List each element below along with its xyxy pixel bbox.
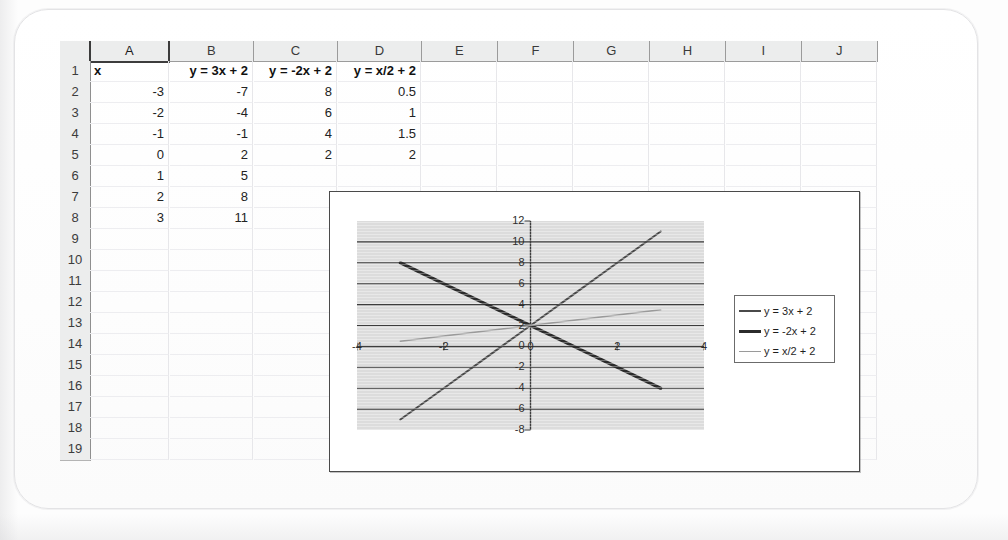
column-header-g[interactable]: G	[574, 41, 650, 62]
row-header-16[interactable]: 16	[60, 376, 91, 398]
row-header-9[interactable]: 9	[60, 229, 91, 251]
cell-C8[interactable]	[254, 208, 337, 229]
cell-A10[interactable]	[90, 250, 169, 271]
select-all-corner[interactable]	[60, 41, 91, 62]
cell-F6[interactable]	[498, 166, 573, 187]
cell-D3[interactable]: 1	[338, 103, 421, 124]
cell-E4[interactable]	[422, 124, 497, 145]
row-header-13[interactable]: 13	[60, 313, 91, 335]
row-header-6[interactable]: 6	[60, 166, 91, 188]
row-header-17[interactable]: 17	[60, 397, 91, 419]
cell-A14[interactable]	[90, 334, 169, 355]
column-header-f[interactable]: F	[498, 41, 574, 62]
cell-B16[interactable]	[170, 376, 253, 397]
cell-A19[interactable]	[90, 439, 169, 460]
row-header-1[interactable]: 1	[60, 61, 91, 83]
cell-G6[interactable]	[574, 166, 649, 187]
cell-A16[interactable]	[90, 376, 169, 397]
cell-B8[interactable]: 11	[170, 208, 253, 229]
cell-A15[interactable]	[90, 355, 169, 376]
cell-C2[interactable]: 8	[254, 82, 337, 103]
cell-C10[interactable]	[254, 250, 337, 271]
cell-H2[interactable]	[650, 82, 725, 103]
row-header-2[interactable]: 2	[60, 82, 91, 104]
cell-G2[interactable]	[574, 82, 649, 103]
cell-B13[interactable]	[170, 313, 253, 334]
column-header-e[interactable]: E	[422, 41, 498, 62]
cell-D2[interactable]: 0.5	[338, 82, 421, 103]
cell-C1[interactable]: y = -2x + 2	[254, 61, 337, 82]
cell-H1[interactable]	[650, 61, 725, 82]
cell-C12[interactable]	[254, 292, 337, 313]
cell-F3[interactable]	[498, 103, 573, 124]
cell-E6[interactable]	[422, 166, 497, 187]
cell-A17[interactable]	[90, 397, 169, 418]
cell-A3[interactable]: -2	[90, 103, 169, 124]
cell-E1[interactable]	[422, 61, 497, 82]
cell-B7[interactable]: 8	[170, 187, 253, 208]
cell-F4[interactable]	[498, 124, 573, 145]
cell-C6[interactable]	[254, 166, 337, 187]
cell-A13[interactable]	[90, 313, 169, 334]
row-header-12[interactable]: 12	[60, 292, 91, 314]
cell-H3[interactable]	[650, 103, 725, 124]
cell-C11[interactable]	[254, 271, 337, 292]
row-header-15[interactable]: 15	[60, 355, 91, 377]
row-header-11[interactable]: 11	[60, 271, 91, 293]
column-header-d[interactable]: D	[338, 41, 422, 62]
row-header-4[interactable]: 4	[60, 124, 91, 146]
cell-G4[interactable]	[574, 124, 649, 145]
cell-D5[interactable]: 2	[338, 145, 421, 166]
column-header-i[interactable]: I	[726, 41, 802, 62]
row-header-7[interactable]: 7	[60, 187, 91, 209]
cell-B5[interactable]: 2	[170, 145, 253, 166]
row-header-14[interactable]: 14	[60, 334, 91, 356]
cell-A18[interactable]	[90, 418, 169, 439]
cell-B2[interactable]: -7	[170, 82, 253, 103]
cell-B9[interactable]	[170, 229, 253, 250]
cell-I2[interactable]	[726, 82, 801, 103]
cell-C13[interactable]	[254, 313, 337, 334]
cell-E3[interactable]	[422, 103, 497, 124]
cell-B17[interactable]	[170, 397, 253, 418]
column-header-j[interactable]: J	[802, 41, 878, 62]
cell-H4[interactable]	[650, 124, 725, 145]
cell-F5[interactable]	[498, 145, 573, 166]
cell-A9[interactable]	[90, 229, 169, 250]
row-header-10[interactable]: 10	[60, 250, 91, 272]
column-header-b[interactable]: B	[170, 41, 254, 62]
cell-C19[interactable]	[254, 439, 337, 460]
cell-A7[interactable]: 2	[90, 187, 169, 208]
cell-B3[interactable]: -4	[170, 103, 253, 124]
cell-I6[interactable]	[726, 166, 801, 187]
row-header-8[interactable]: 8	[60, 208, 91, 230]
cell-J1[interactable]	[802, 61, 877, 82]
cell-C14[interactable]	[254, 334, 337, 355]
cell-C3[interactable]: 6	[254, 103, 337, 124]
cell-A4[interactable]: -1	[90, 124, 169, 145]
column-header-h[interactable]: H	[650, 41, 726, 62]
cell-A2[interactable]: -3	[90, 82, 169, 103]
cell-I5[interactable]	[726, 145, 801, 166]
cell-F2[interactable]	[498, 82, 573, 103]
cell-B19[interactable]	[170, 439, 253, 460]
cell-C7[interactable]	[254, 187, 337, 208]
cell-C9[interactable]	[254, 229, 337, 250]
cell-A1[interactable]: x	[90, 61, 169, 82]
cell-G1[interactable]	[574, 61, 649, 82]
cell-B11[interactable]	[170, 271, 253, 292]
cell-G5[interactable]	[574, 145, 649, 166]
cell-G3[interactable]	[574, 103, 649, 124]
cell-B18[interactable]	[170, 418, 253, 439]
cell-B10[interactable]	[170, 250, 253, 271]
cell-I4[interactable]	[726, 124, 801, 145]
cell-H6[interactable]	[650, 166, 725, 187]
column-header-c[interactable]: C	[254, 41, 338, 62]
column-header-a[interactable]: A	[90, 41, 170, 63]
cell-A11[interactable]	[90, 271, 169, 292]
cell-J3[interactable]	[802, 103, 877, 124]
cell-A5[interactable]: 0	[90, 145, 169, 166]
cell-D4[interactable]: 1.5	[338, 124, 421, 145]
cell-D6[interactable]	[338, 166, 421, 187]
cell-B6[interactable]: 5	[170, 166, 253, 187]
